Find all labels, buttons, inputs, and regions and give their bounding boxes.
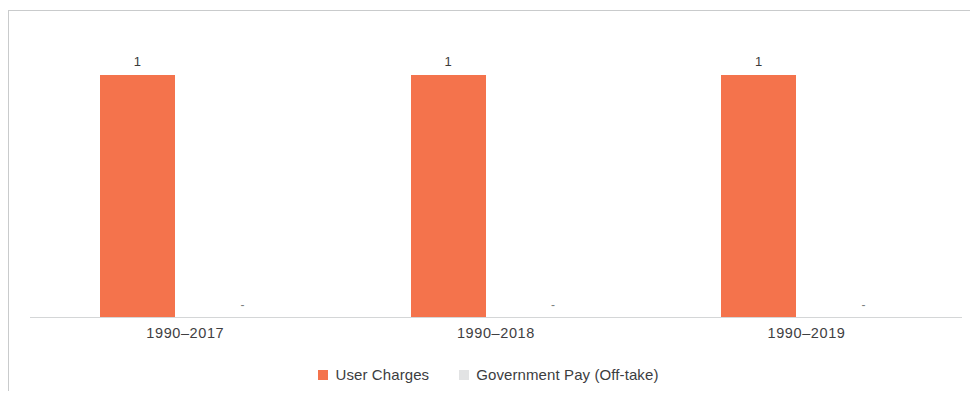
bar-value-label: 1	[411, 54, 486, 69]
legend-swatch-icon	[318, 370, 328, 380]
bar-value-label: -	[826, 298, 901, 312]
bar-user-charges[interactable]	[721, 75, 796, 318]
legend-swatch-icon	[459, 370, 469, 380]
bar-user-charges[interactable]	[100, 75, 175, 318]
x-axis-tick-labels: 1990–2017 1990–2018 1990–2019	[30, 325, 962, 351]
legend-label: Government Pay (Off-take)	[476, 366, 658, 383]
category-group: 1 -	[30, 20, 341, 318]
x-axis-tick-label: 1990–2017	[30, 325, 341, 341]
bar-user-charges[interactable]	[411, 75, 486, 318]
chart-frame-left-border	[8, 10, 9, 391]
chart-legend: User Charges Government Pay (Off-take)	[0, 366, 977, 383]
x-axis-line	[30, 317, 962, 318]
legend-item-government-pay[interactable]: Government Pay (Off-take)	[459, 366, 658, 383]
bar-value-label: 1	[721, 54, 796, 69]
legend-label: User Charges	[335, 366, 429, 383]
legend-item-user-charges[interactable]: User Charges	[318, 366, 429, 383]
bar-value-label: -	[205, 298, 280, 312]
bar-chart: 1 - 1 - 1 - 1990–2017 1990–2018 1990–201…	[0, 0, 977, 402]
category-group: 1 -	[651, 20, 962, 318]
category-group: 1 -	[341, 20, 652, 318]
x-axis-tick-label: 1990–2018	[341, 325, 652, 341]
plot-area: 1 - 1 - 1 -	[30, 20, 962, 318]
bar-value-label: 1	[100, 54, 175, 69]
x-axis-tick-label: 1990–2019	[651, 325, 962, 341]
chart-frame-top-border	[8, 10, 970, 11]
bar-value-label: -	[516, 298, 591, 312]
